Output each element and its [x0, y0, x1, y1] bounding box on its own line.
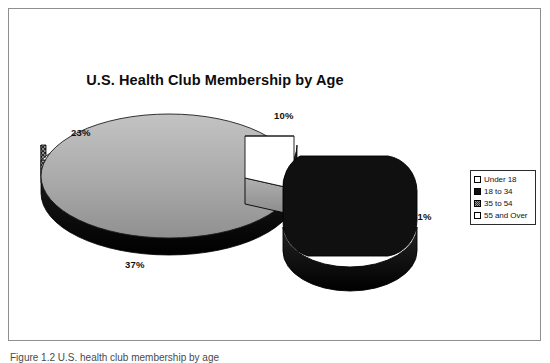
slice-top-18to34: [283, 156, 417, 256]
legend-swatch-icon-18-to-34: [474, 188, 481, 195]
legend-item-35-to-54: 35 to 54: [474, 198, 533, 209]
data-label-35-to-54: 37%: [125, 259, 145, 270]
data-label-under-18: 10%: [274, 110, 294, 121]
chart-legend: Under 18 18 to 34 35 to 54 55 and Over: [470, 170, 536, 225]
chart-title: U.S. Health Club Membership by Age: [0, 72, 430, 88]
legend-label-under-18: Under 18: [484, 175, 517, 184]
data-label-55-and-over: 23%: [71, 127, 91, 138]
legend-swatch-icon-under-18: [474, 176, 481, 183]
legend-swatch-icon-55-and-over: [474, 212, 481, 219]
legend-item-under-18: Under 18: [474, 174, 533, 185]
legend-swatch-icon-35-to-54: [474, 200, 481, 207]
data-label-18-to-34: 31%: [412, 211, 432, 222]
legend-label-55-and-over: 55 and Over: [484, 211, 527, 220]
legend-label-18-to-34: 18 to 34: [484, 187, 513, 196]
pie-chart-plot-area: [8, 8, 541, 341]
pie-chart-graphic: [8, 8, 541, 341]
legend-item-55-and-over: 55 and Over: [474, 210, 533, 221]
figure-caption: Figure 1.2 U.S. health club membership b…: [10, 352, 430, 363]
legend-item-18-to-34: 18 to 34: [474, 186, 533, 197]
slice-18-to-34: [283, 156, 417, 291]
legend-label-35-to-54: 35 to 54: [484, 199, 513, 208]
